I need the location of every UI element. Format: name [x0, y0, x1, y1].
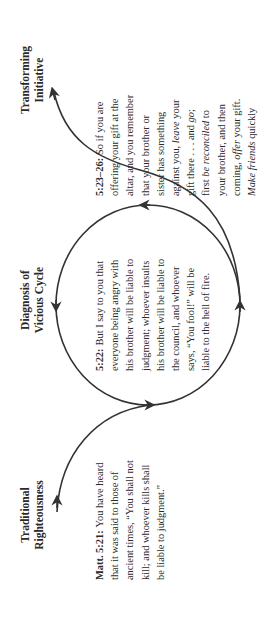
passage-line: coming, offer your gift.	[229, 95, 244, 196]
passage-line: his brother will be liable to	[153, 259, 168, 371]
diagram-stage: Transforming Initiative Diagnosis of Vic…	[0, 0, 260, 624]
passage-line: gift there . . . and go;	[183, 95, 198, 196]
passage-line: judgment; whoever insults	[138, 259, 153, 371]
heading-diagnosis-vicious-cycle: Diagnosis of Vicious Cycle	[18, 250, 46, 350]
passage-line: the council, and whoever	[168, 259, 183, 371]
passage-line: his brother will be liable to	[122, 259, 137, 371]
passage-line: everyone being angry with	[107, 259, 122, 371]
verse-reference: 5:23–26:	[94, 158, 105, 196]
heading-line: Transforming	[18, 30, 32, 130]
heading-line: Diagnosis of	[18, 250, 32, 350]
passage-line: your brother, and then	[214, 95, 229, 196]
verse-reference: Matt. 5:21:	[94, 530, 105, 580]
passage-line: sister has something	[153, 95, 168, 196]
heading-traditional-righteousness: Traditional Righteousness	[18, 465, 46, 565]
passage-line: 5:23–26:So if you are	[92, 95, 107, 196]
passage-traditional: Matt. 5:21:You have heardthat it was sai…	[92, 460, 168, 580]
heading-transforming-initiative: Transforming Initiative	[18, 30, 46, 130]
passage-line: liable to the hell of fire.	[198, 259, 213, 371]
passage-line: that your brother or	[138, 95, 153, 196]
passage-line: ancient times, “You shall not	[122, 460, 137, 580]
passage-line: with your accuser . . .	[259, 95, 260, 196]
heading-line: Traditional	[18, 465, 32, 565]
passage-line: Matt. 5:21:You have heard	[92, 460, 107, 580]
passage-line: offering your gift at the	[107, 95, 122, 196]
heading-line: Initiative	[32, 30, 46, 130]
passage-line: 5:22:But I say to you that	[92, 259, 107, 371]
verse-reference: 5:22:	[94, 348, 105, 371]
heading-line: Righteousness	[32, 465, 46, 565]
passage-line: kill; and whoever kills shall	[138, 460, 153, 580]
passage-line: first be reconciled to	[198, 95, 213, 196]
passage-line: Make friends quickly	[244, 95, 259, 196]
heading-line: Vicious Cycle	[32, 250, 46, 350]
passage-diagnosis: 5:22:But I say to you thateveryone being…	[92, 259, 214, 371]
passage-transforming: 5:23–26:So if you areoffering your gift …	[92, 95, 260, 196]
passage-line: that it was said to those of	[107, 460, 122, 580]
passage-line: altar, and you remember	[122, 95, 137, 196]
passage-line: says, “You fool!” will be	[183, 259, 198, 371]
passage-line: be liable to judgment.”	[153, 460, 168, 580]
passage-line: against you, leave your	[168, 95, 183, 196]
